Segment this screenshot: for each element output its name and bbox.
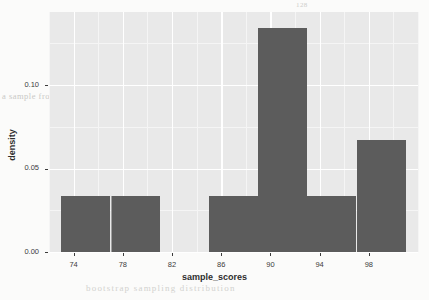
gridline-major-horizontal	[49, 85, 418, 86]
gridline-major-horizontal	[49, 252, 418, 253]
histogram-chart: 0.000.050.1074788286909498 density sampl…	[0, 0, 429, 300]
y-axis-tick-mark	[45, 85, 48, 86]
plot-panel	[49, 12, 418, 252]
bar-edge-divider	[111, 196, 112, 252]
y-axis-tick-label: 0.00	[5, 247, 39, 256]
gridline-minor-horizontal	[49, 43, 418, 44]
x-axis-title: sample_scores	[0, 272, 429, 282]
x-axis-tick-mark	[74, 253, 75, 256]
x-axis-tick-mark	[320, 253, 321, 256]
x-axis-tick-mark	[123, 253, 124, 256]
y-axis-tick-mark	[45, 169, 48, 170]
x-axis-tick-label: 78	[111, 260, 135, 269]
x-axis-tick-label: 90	[258, 260, 282, 269]
histogram-bar	[357, 140, 406, 252]
gridline-minor-vertical	[418, 12, 419, 252]
histogram-bar	[61, 196, 110, 252]
x-axis-tick-label: 94	[308, 260, 332, 269]
x-axis-tick-label: 98	[357, 260, 381, 269]
histogram-bar	[307, 196, 356, 252]
y-axis-tick-mark	[45, 252, 48, 253]
page-background: 128 the distribution of a sample from a …	[0, 0, 429, 300]
gridline-major-vertical	[172, 12, 173, 252]
gridline-minor-vertical	[49, 12, 50, 252]
y-axis-title: density	[7, 110, 17, 180]
x-axis-tick-label: 86	[209, 260, 233, 269]
histogram-bar	[209, 196, 258, 252]
gridline-minor-horizontal	[49, 127, 418, 128]
x-axis-tick-label: 82	[160, 260, 184, 269]
x-axis-tick-mark	[369, 253, 370, 256]
x-axis-tick-label: 74	[62, 260, 86, 269]
histogram-bar	[258, 28, 307, 252]
histogram-bar	[111, 196, 160, 252]
x-axis-tick-mark	[270, 253, 271, 256]
x-axis-tick-mark	[221, 253, 222, 256]
x-axis-tick-mark	[172, 253, 173, 256]
gridline-minor-vertical	[197, 12, 198, 252]
y-axis-tick-label: 0.10	[5, 80, 39, 89]
